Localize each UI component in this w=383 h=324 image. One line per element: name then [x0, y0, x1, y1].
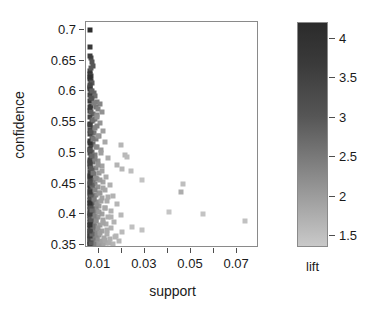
y-axis-tick — [79, 244, 84, 245]
data-point — [89, 110, 94, 115]
data-point — [108, 215, 113, 220]
colorbar-tick-label: 2 — [339, 190, 346, 203]
y-axis-tick — [79, 152, 84, 153]
y-axis-tick-label: 0.45 — [51, 177, 76, 190]
y-axis-tick-label: 0.6 — [58, 84, 76, 97]
colorbar-tick-label: 1.5 — [339, 229, 357, 242]
data-point — [88, 180, 93, 185]
y-axis-tick — [79, 60, 84, 61]
x-axis-tick — [213, 248, 214, 253]
y-axis-tick-label: 0.5 — [58, 146, 76, 159]
colorbar-title: lift — [297, 259, 328, 274]
data-point — [88, 228, 93, 233]
y-axis-tick — [79, 90, 84, 91]
data-point — [102, 206, 107, 211]
data-point — [179, 190, 184, 195]
y-axis-tick-label: 0.4 — [58, 207, 76, 220]
y-axis-tick-label: 0.65 — [51, 54, 76, 67]
y-axis-label: confidence — [11, 80, 27, 170]
data-point — [117, 238, 122, 243]
data-point — [112, 234, 117, 239]
data-point — [109, 225, 114, 230]
data-point — [90, 171, 95, 176]
scatter-plot-figure: confidence 0.350.40.450.50.550.60.650.7 … — [0, 0, 383, 324]
data-point — [87, 74, 92, 79]
data-point — [93, 219, 98, 224]
data-point — [99, 198, 104, 203]
data-point — [104, 174, 109, 179]
data-point — [98, 230, 103, 235]
x-axis-tick — [144, 248, 145, 253]
colorbar-tick — [329, 235, 335, 236]
data-point — [96, 133, 101, 138]
data-point — [140, 227, 145, 232]
colorbar-tick-label: 4 — [339, 32, 346, 45]
data-point — [88, 28, 93, 33]
colorbar-tick — [329, 77, 335, 78]
x-axis-tick-label: 0.01 — [85, 257, 110, 270]
data-point — [88, 95, 93, 100]
data-point — [242, 219, 247, 224]
data-point — [100, 220, 105, 225]
x-axis-tick — [121, 248, 122, 253]
colorbar-tick — [329, 196, 335, 197]
data-point — [95, 163, 100, 168]
data-point — [92, 101, 97, 106]
data-point — [87, 122, 92, 127]
x-axis-tick — [190, 248, 191, 253]
data-point — [93, 126, 98, 131]
data-point — [98, 150, 103, 155]
data-point — [104, 227, 109, 232]
data-point — [112, 220, 117, 225]
x-axis-tick-label: 0.03 — [131, 257, 156, 270]
data-point — [88, 82, 93, 87]
data-point — [89, 89, 94, 94]
data-point — [111, 194, 116, 199]
data-point — [99, 168, 104, 173]
data-point — [139, 178, 144, 183]
data-point — [101, 128, 106, 133]
colorbar-tick-label: 2.5 — [339, 150, 357, 163]
data-point — [88, 147, 93, 152]
data-point — [114, 202, 119, 207]
y-axis-tick-label: 0.55 — [51, 115, 76, 128]
lift-colorbar — [297, 22, 328, 247]
colorbar-tick-label: 3 — [339, 111, 346, 124]
data-point — [200, 211, 205, 216]
data-point — [124, 154, 129, 159]
colorbar-tick-label: 3.5 — [339, 71, 357, 84]
data-point — [87, 53, 92, 58]
y-axis-tick — [79, 29, 84, 30]
y-axis-tick — [79, 183, 84, 184]
data-point — [93, 144, 98, 149]
data-point — [101, 185, 106, 190]
x-axis-label: support — [0, 283, 345, 299]
data-point — [87, 45, 92, 50]
data-point — [87, 105, 92, 110]
data-point — [90, 153, 95, 158]
data-point — [120, 167, 125, 172]
x-axis-tick-label: 0.07 — [223, 257, 248, 270]
data-point — [118, 143, 123, 148]
data-point — [96, 225, 101, 230]
y-axis-tick — [79, 213, 84, 214]
data-point — [94, 176, 99, 181]
data-point — [97, 209, 102, 214]
data-point — [120, 230, 125, 235]
data-point — [129, 168, 134, 173]
plot-area — [85, 21, 258, 247]
colorbar-tick — [329, 38, 335, 39]
data-point — [102, 140, 107, 145]
colorbar-tick — [329, 117, 335, 118]
data-point — [167, 209, 172, 214]
data-point — [114, 163, 119, 168]
data-point — [129, 224, 134, 229]
x-axis-tick-label: 0.05 — [177, 257, 202, 270]
x-axis-tick — [167, 248, 168, 253]
data-point — [89, 66, 94, 71]
y-axis-tick — [79, 121, 84, 122]
data-point — [89, 166, 94, 171]
data-point — [107, 183, 112, 188]
data-point — [95, 114, 100, 119]
data-point — [87, 222, 92, 227]
